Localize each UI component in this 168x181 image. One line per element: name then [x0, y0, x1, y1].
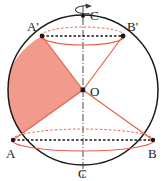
point-dot-A [11, 138, 15, 142]
point-dot-B-prime [121, 34, 126, 39]
geometry-figure: C A' B' O A B C [0, 0, 168, 181]
label-B-lower: B [148, 146, 157, 161]
label-A-prime: A' [27, 19, 39, 34]
label-A-lower: A [6, 146, 16, 161]
point-dot-C-top [81, 14, 85, 18]
label-C-top: C [90, 8, 99, 23]
label-C-bottom: C [78, 166, 87, 181]
point-dot-B [151, 138, 155, 142]
point-dot-O [81, 88, 86, 93]
label-O-center: O [90, 84, 99, 99]
sphere-rotation-diagram: C A' B' O A B C [0, 0, 168, 181]
label-B-prime: B' [127, 19, 138, 34]
point-dot-A-prime [40, 34, 45, 39]
